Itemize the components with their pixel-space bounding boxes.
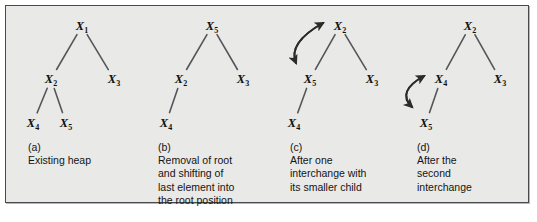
tree-edge xyxy=(187,35,207,70)
tree-node-d-X4: X4 xyxy=(434,72,447,88)
panel-caption-c: (c)After oneinterchange withits smaller … xyxy=(290,141,366,194)
heap-figure: X1X2X3X4X5X5X2X3X4X2X5X3X4X2X4X3X5 (a)Ex… xyxy=(0,0,537,222)
swap-arrow-down xyxy=(294,23,323,63)
caption-line: last element into xyxy=(158,181,234,194)
node-subscript: 5 xyxy=(428,123,432,132)
node-subscript: 2 xyxy=(183,79,187,88)
tree-node-a-X1: X1 xyxy=(75,19,88,35)
tree-node-c-X2: X2 xyxy=(333,19,346,35)
panel-caption-lines-d: After thesecondinterchange xyxy=(417,154,472,194)
panel-tag-d: (d) xyxy=(417,141,430,154)
tree-node-b-X5: X5 xyxy=(205,19,218,35)
caption-line: and shifting of xyxy=(158,167,234,180)
node-subscript: 5 xyxy=(68,123,72,132)
tree-edge xyxy=(446,35,465,70)
tree-edge-layer xyxy=(37,35,494,113)
panel-caption-lines-c: After oneinterchange withits smaller chi… xyxy=(290,154,366,194)
tree-edge xyxy=(54,88,62,112)
node-subscript: 4 xyxy=(296,123,300,132)
caption-line: its smaller child xyxy=(290,181,366,194)
panel-caption-d: (d)After thesecondinterchange xyxy=(417,141,472,194)
tree-node-a-X5: X5 xyxy=(59,116,72,132)
tree-node-b-X4: X4 xyxy=(159,116,172,132)
node-subscript: 3 xyxy=(116,79,120,88)
node-subscript: 5 xyxy=(312,79,316,88)
panel-caption-lines-b: Removal of rootand shifting oflast eleme… xyxy=(158,154,234,207)
node-subscript: 4 xyxy=(168,123,172,132)
caption-line: Existing heap xyxy=(28,154,91,167)
tree-edge xyxy=(430,88,438,112)
caption-line: second xyxy=(417,167,472,180)
tree-node-c-X5: X5 xyxy=(303,72,316,88)
tree-edge xyxy=(315,35,335,70)
node-subscript: 4 xyxy=(443,79,447,88)
tree-edge xyxy=(298,88,307,112)
tree-edge xyxy=(217,35,237,70)
node-subscript: 3 xyxy=(502,79,506,88)
tree-node-layer: X1X2X3X4X5X5X2X3X4X2X5X3X4X2X4X3X5 xyxy=(26,19,506,132)
swap-arrow-down xyxy=(406,76,424,107)
caption-line: the root position xyxy=(158,194,234,207)
tree-node-a-X4: X4 xyxy=(26,116,39,132)
caption-line: interchange xyxy=(417,181,472,194)
node-subscript: 5 xyxy=(214,26,218,35)
panel-tag-c: (c) xyxy=(290,141,302,154)
panel-tag-b: (b) xyxy=(158,141,171,154)
caption-line: Removal of root xyxy=(158,154,234,167)
caption-line: After one xyxy=(290,154,366,167)
tree-edge xyxy=(345,35,366,70)
tree-node-a-X2: X2 xyxy=(44,72,57,88)
panel-caption-b: (b)Removal of rootand shifting oflast el… xyxy=(158,141,234,207)
panel-tag-a: (a) xyxy=(28,141,41,154)
tree-edge xyxy=(87,35,108,70)
tree-node-b-X3: X3 xyxy=(236,72,249,88)
node-subscript: 2 xyxy=(342,26,346,35)
caption-line: interchange with xyxy=(290,167,366,180)
swap-arrow-layer xyxy=(294,23,424,107)
tree-edge xyxy=(170,88,178,112)
node-subscript: 4 xyxy=(35,123,39,132)
tree-node-d-X3: X3 xyxy=(493,72,506,88)
tree-node-d-X5: X5 xyxy=(419,116,432,132)
tree-node-a-X3: X3 xyxy=(107,72,120,88)
node-subscript: 1 xyxy=(84,26,88,35)
tree-edge xyxy=(37,88,47,113)
node-subscript: 2 xyxy=(53,79,57,88)
tree-node-c-X4: X4 xyxy=(287,116,300,132)
tree-edge xyxy=(57,35,77,70)
tree-node-b-X2: X2 xyxy=(174,72,187,88)
node-subscript: 3 xyxy=(245,79,249,88)
tree-node-c-X3: X3 xyxy=(365,72,378,88)
panel-caption-a: (a)Existing heap xyxy=(28,141,91,167)
node-subscript: 2 xyxy=(472,26,476,35)
node-subscript: 3 xyxy=(374,79,378,88)
panel-caption-lines-a: Existing heap xyxy=(28,154,91,167)
tree-edge xyxy=(475,35,495,70)
tree-node-d-X2: X2 xyxy=(463,19,476,35)
caption-line: After the xyxy=(417,154,472,167)
